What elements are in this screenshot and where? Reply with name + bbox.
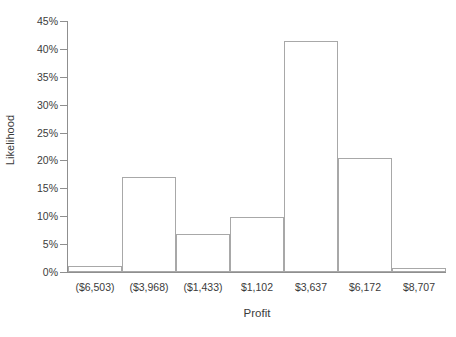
y-axis-tick-label: 15% bbox=[20, 182, 58, 194]
y-axis-tick-label: 0% bbox=[20, 266, 58, 278]
y-axis-tick-label: 5% bbox=[20, 238, 58, 250]
x-axis-tick-label: ($3,968) bbox=[122, 281, 176, 293]
y-axis-tick-mark bbox=[60, 160, 67, 161]
y-axis-tick-mark bbox=[60, 216, 67, 217]
y-axis-tick-label: 10% bbox=[20, 210, 58, 222]
y-axis-tick-marks bbox=[60, 15, 67, 279]
y-axis-tick-mark bbox=[60, 105, 67, 106]
x-axis-tick-label: $1,102 bbox=[230, 281, 284, 293]
y-axis-tick-mark bbox=[60, 49, 67, 50]
plot-area bbox=[68, 21, 446, 272]
y-axis-title: Likelihood bbox=[0, 0, 20, 280]
x-axis-tick-label: ($6,503) bbox=[68, 281, 122, 293]
y-axis-tick-mark bbox=[60, 244, 67, 245]
x-axis-title: Profit bbox=[68, 307, 446, 319]
histogram-chart: Likelihood 0%5%10%15%20%25%30%35%40%45% … bbox=[0, 0, 456, 337]
x-axis-tick-label: ($1,433) bbox=[176, 281, 230, 293]
y-axis-tick-labels: 0%5%10%15%20%25%30%35%40%45% bbox=[20, 15, 58, 279]
y-axis-title-text: Likelihood bbox=[4, 115, 16, 166]
y-axis-tick-label: 20% bbox=[20, 154, 58, 166]
y-axis-tick-mark bbox=[60, 77, 67, 78]
x-axis-tick-labels: ($6,503)($3,968)($1,433)$1,102$3,637$6,1… bbox=[68, 275, 446, 297]
y-axis-tick-label: 30% bbox=[20, 99, 58, 111]
bar bbox=[338, 158, 392, 272]
x-axis-tick-label: $6,172 bbox=[338, 281, 392, 293]
bar bbox=[122, 177, 176, 272]
bar bbox=[68, 266, 122, 272]
x-axis-tick-label: $8,707 bbox=[392, 281, 446, 293]
x-axis-tick-label: $3,637 bbox=[284, 281, 338, 293]
y-axis-tick-label: 35% bbox=[20, 71, 58, 83]
y-axis-tick-label: 25% bbox=[20, 127, 58, 139]
y-axis-tick-mark bbox=[60, 133, 67, 134]
bar bbox=[176, 234, 230, 272]
x-axis-line bbox=[67, 272, 446, 273]
y-axis-tick-mark bbox=[60, 272, 67, 273]
y-axis-tick-label: 40% bbox=[20, 43, 58, 55]
bar bbox=[230, 217, 284, 272]
bar bbox=[284, 41, 338, 272]
bar bbox=[392, 268, 446, 272]
y-axis-tick-label: 45% bbox=[20, 15, 58, 27]
y-axis-tick-mark bbox=[60, 188, 67, 189]
y-axis-tick-mark bbox=[60, 21, 67, 22]
